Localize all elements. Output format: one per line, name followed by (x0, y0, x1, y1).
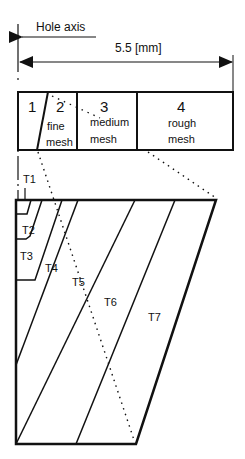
region-t5-label: T5 (72, 276, 85, 288)
region-t3-label: T3 (20, 250, 33, 262)
zone-4: 4 rough mesh (168, 98, 196, 145)
layer-trapezoid (16, 200, 216, 444)
svg-text:medium: medium (90, 116, 129, 128)
hole-axis-label: Hole axis (36, 20, 85, 34)
svg-text:T1: T1 (23, 173, 36, 185)
mesh-zone-diagram: Hole axis 5.5 [mm] 1 2 fine mesh 3 mediu… (0, 0, 245, 459)
svg-text:4: 4 (177, 98, 185, 115)
svg-text:mesh: mesh (90, 133, 117, 145)
diagram-canvas: Hole axis 5.5 [mm] 1 2 fine mesh 3 mediu… (0, 0, 245, 459)
dimension-arrow: 5.5 [mm] (20, 41, 233, 92)
region-t6-label: T6 (104, 296, 117, 308)
svg-text:3: 3 (100, 98, 108, 115)
region-t4-label: T4 (45, 262, 58, 274)
svg-text:mesh: mesh (46, 136, 73, 148)
region-t7-label: T7 (148, 311, 161, 323)
t1-marker: T1 (23, 173, 36, 200)
zone-1: 1 (28, 98, 36, 115)
region-t2-label: T2 (22, 224, 35, 236)
svg-text:fine: fine (47, 120, 65, 132)
svg-text:2: 2 (56, 98, 64, 115)
svg-text:mesh: mesh (168, 133, 195, 145)
zone-3: 3 medium mesh (90, 98, 129, 145)
hole-axis-arrow: Hole axis (22, 20, 96, 37)
projection-lines (38, 152, 216, 440)
zone-2: 2 fine mesh (46, 98, 73, 148)
svg-text:1: 1 (28, 98, 36, 115)
dimension-label: 5.5 [mm] (115, 41, 162, 55)
svg-text:rough: rough (168, 117, 196, 129)
